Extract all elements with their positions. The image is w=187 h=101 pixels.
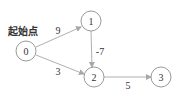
svg-text:3: 3	[159, 72, 164, 83]
node-3: 3	[151, 67, 171, 87]
node-0: 0	[16, 41, 36, 61]
svg-text:2: 2	[92, 72, 97, 83]
edge-weight-0-1: 9	[56, 25, 61, 36]
svg-text:1: 1	[89, 16, 94, 27]
edge-weight-2-3: 5	[126, 80, 131, 91]
start-point-label: 起始点	[7, 25, 38, 37]
svg-text:0: 0	[24, 46, 29, 57]
node-1: 1	[81, 11, 101, 31]
edge-weight-0-2: 3	[56, 66, 61, 77]
edge-weight-1-2: -7	[96, 46, 104, 57]
node-2: 2	[84, 67, 104, 87]
graph-diagram: 9 3 -7 5 起始点 0 1 2 3	[0, 0, 187, 101]
edge-1-2	[91, 31, 92, 67]
